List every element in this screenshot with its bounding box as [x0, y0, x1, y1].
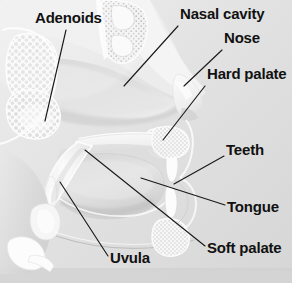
label-adenoids: Adenoids	[35, 10, 102, 25]
label-nasal-cavity: Nasal cavity	[180, 6, 264, 21]
label-soft-palate: Soft palate	[207, 240, 281, 255]
label-uvula: Uvula	[110, 250, 150, 265]
label-tongue: Tongue	[227, 199, 279, 214]
label-nose: Nose	[224, 30, 260, 45]
anatomy-figure: AdenoidsNasal cavityNoseHard palateTeeth…	[0, 0, 292, 283]
label-teeth: Teeth	[226, 142, 264, 157]
label-hard-palate: Hard palate	[207, 66, 287, 81]
